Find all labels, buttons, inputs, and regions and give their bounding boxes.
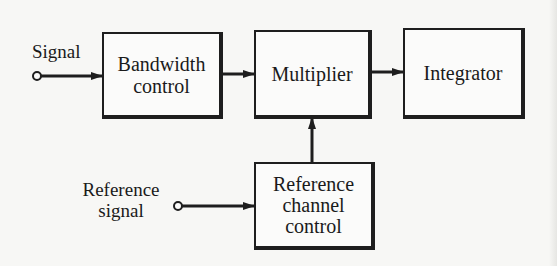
block-refchannel-line-2: channel <box>282 195 344 216</box>
block-refchannel-line-3: control <box>285 216 342 237</box>
block-refchannel-line-1: Reference <box>273 174 354 195</box>
signal-label-text: Signal <box>32 41 81 62</box>
block-diagram: Signal Reference signal Bandwidth contro… <box>0 0 557 266</box>
reference-terminal-icon <box>174 202 182 210</box>
block-integrator: Integrator <box>403 28 525 119</box>
block-bandwidth-control-line-2: control <box>133 75 190 97</box>
block-multiplier: Multiplier <box>254 30 372 119</box>
block-reference-channel-control: Reference channel control <box>254 162 375 250</box>
signal-label: Signal <box>32 41 81 62</box>
reference-signal-label: Reference signal <box>72 179 170 221</box>
block-multiplier-label: Multiplier <box>271 63 352 85</box>
reference-signal-label-line-1: Reference <box>72 179 170 200</box>
block-integrator-label: Integrator <box>424 62 503 84</box>
signal-terminal-icon <box>33 72 41 80</box>
page-edge-shadow <box>549 0 557 266</box>
block-bandwidth-control: Bandwidth control <box>102 32 223 119</box>
block-bandwidth-control-line-1: Bandwidth <box>118 53 206 75</box>
reference-signal-label-line-2: signal <box>72 200 170 221</box>
